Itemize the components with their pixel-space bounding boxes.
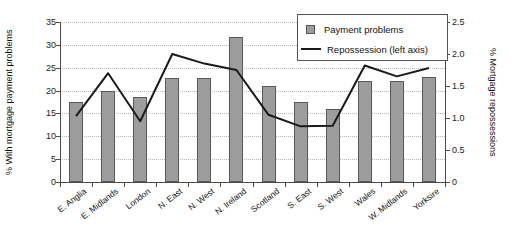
y-axis-left-ticklabel: 35 xyxy=(46,17,56,27)
x-axis-ticklabel: London xyxy=(124,186,153,211)
x-axis-tick xyxy=(445,182,446,187)
x-axis-ticklabel: Wales xyxy=(352,186,377,208)
x-axis-ticklabel: Yorksire xyxy=(411,186,441,213)
legend-label: Payment problems xyxy=(324,24,403,35)
y-axis-left-title: % With mortgage payment problems xyxy=(2,18,16,186)
y-axis-left-ticklabel: 30 xyxy=(46,40,56,50)
y-axis-right-ticklabel: 1.0 xyxy=(452,113,465,123)
legend-line-icon xyxy=(301,48,321,50)
legend: Payment problems Repossession (left axis… xyxy=(297,14,448,61)
y-axis-left-line xyxy=(60,22,61,183)
y-axis-left-ticklabel: 20 xyxy=(46,86,56,96)
y-axis-left-ticklabel: 15 xyxy=(46,108,56,118)
y-axis-right-ticklabel: 0 xyxy=(452,177,457,187)
y-axis-right-ticklabel: 2.0 xyxy=(452,49,465,59)
x-axis-ticklabel: S. East xyxy=(285,186,313,211)
y-axis-right-ticklabel: 1.5 xyxy=(452,81,465,91)
y-axis-right-title: % Mortgage repossessions xyxy=(486,18,500,186)
x-axis-ticklabel: N. Ireland xyxy=(213,186,248,217)
y-axis-right-ticklabel: 0.5 xyxy=(452,145,465,155)
y-axis-right-ticklabel: 2.5 xyxy=(452,17,465,27)
x-axis-ticklabel: S. West xyxy=(315,186,344,212)
y-axis-left-ticklabel: 25 xyxy=(46,63,56,73)
x-axis-ticklabel: N. East xyxy=(156,186,184,211)
legend-item-repossession: Repossession (left axis) xyxy=(298,39,447,59)
legend-label: Repossession (left axis) xyxy=(327,44,428,55)
legend-item-payment-problems: Payment problems xyxy=(298,19,447,39)
y-axis-left-ticklabel: 10 xyxy=(46,131,56,141)
x-axis-ticklabels: E. AngliaE. MidlandsLondonN. EastN. West… xyxy=(60,186,445,248)
legend-square-icon xyxy=(306,25,315,34)
x-axis-ticklabel: Scotland xyxy=(248,186,280,214)
chart-figure: % With mortgage payment problems % Mortg… xyxy=(0,0,513,249)
